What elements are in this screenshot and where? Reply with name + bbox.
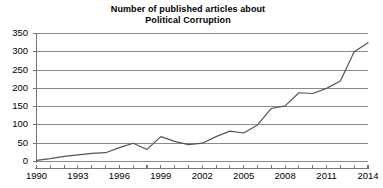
y-tick-label-50: 50 bbox=[0, 138, 28, 148]
x-tick-label-2014: 2014 bbox=[351, 171, 383, 181]
y-tick-label-250: 250 bbox=[0, 65, 28, 75]
x-tick-label-2002: 2002 bbox=[185, 171, 219, 181]
x-tick-label-2011: 2011 bbox=[310, 171, 344, 181]
x-tick-label-1996: 1996 bbox=[102, 171, 136, 181]
x-tick-label-2008: 2008 bbox=[268, 171, 302, 181]
y-tick-label-100: 100 bbox=[0, 119, 28, 129]
y-tick-label-300: 300 bbox=[0, 46, 28, 56]
y-tick-label-150: 150 bbox=[0, 101, 28, 111]
x-tick-label-2005: 2005 bbox=[227, 171, 261, 181]
y-tick-label-200: 200 bbox=[0, 83, 28, 93]
x-tick-label-1993: 1993 bbox=[61, 171, 95, 181]
x-tick-label-1990: 1990 bbox=[20, 171, 54, 181]
y-tick-label-350: 350 bbox=[0, 28, 28, 38]
x-tick-label-1999: 1999 bbox=[144, 171, 178, 181]
y-tick-label-0: 0 bbox=[0, 156, 28, 166]
